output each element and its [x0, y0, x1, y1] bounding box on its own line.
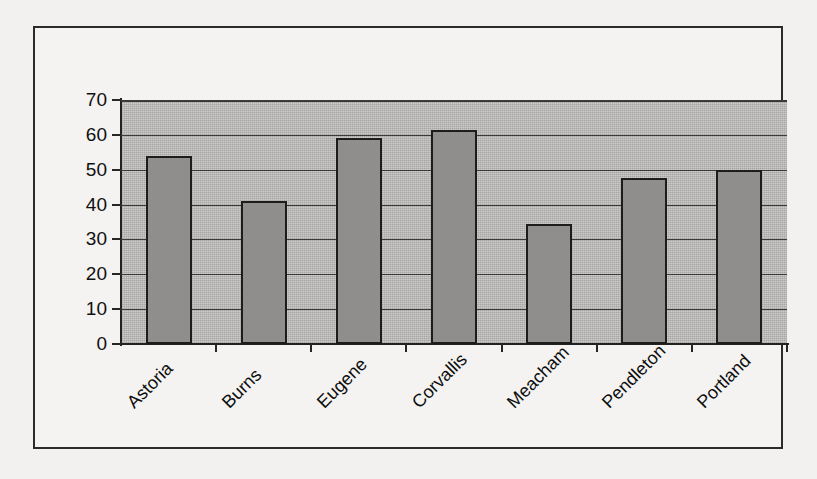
x-tick-4: [596, 344, 598, 352]
y-tick-label-20: 20: [73, 264, 107, 283]
x-label-pendleton: Pendleton: [598, 341, 669, 412]
x-tick-1: [310, 344, 312, 352]
y-tick-label-40: 40: [73, 195, 107, 214]
bar-burns: [241, 201, 287, 344]
x-label-corvallis: Corvallis: [408, 349, 471, 412]
x-label-eugene: Eugene: [313, 354, 371, 412]
chart-frame: 010203040506070 AstoriaBurnsEugeneCorval…: [33, 26, 783, 449]
y-tick-10: [112, 308, 121, 310]
y-tick-label-70: 70: [73, 90, 107, 109]
y-tick-label-30: 30: [73, 229, 107, 248]
x-tick-5: [691, 344, 693, 352]
gridline-70: [121, 100, 787, 102]
x-label-meacham: Meacham: [503, 342, 573, 412]
y-tick-30: [112, 238, 121, 240]
screenshot-root: 010203040506070 AstoriaBurnsEugeneCorval…: [0, 0, 817, 479]
x-tick-6: [786, 344, 788, 352]
y-tick-20: [112, 273, 121, 275]
y-tick-label-10: 10: [73, 299, 107, 318]
x-label-astoria: Astoria: [123, 358, 177, 412]
x-label-burns: Burns: [218, 365, 265, 412]
y-tick-60: [112, 134, 121, 136]
bar-meacham: [526, 224, 572, 344]
y-tick-label-60: 60: [73, 125, 107, 144]
x-tick-3: [501, 344, 503, 352]
y-tick-40: [112, 204, 121, 206]
y-tick-70: [112, 99, 121, 101]
bar-astoria: [146, 156, 192, 344]
x-tick-0: [215, 344, 217, 352]
bar-portland: [716, 170, 762, 344]
bar-eugene: [336, 138, 382, 344]
y-tick-50: [112, 169, 121, 171]
bar-pendleton: [621, 178, 667, 344]
y-tick-label-50: 50: [73, 160, 107, 179]
x-label-portland: Portland: [693, 351, 755, 413]
y-axis-tick-labels: 010203040506070: [67, 28, 107, 451]
x-tick-2: [405, 344, 407, 352]
y-tick-label-0: 0: [73, 334, 107, 353]
y-tick-0: [112, 343, 121, 345]
bar-corvallis: [431, 130, 477, 344]
